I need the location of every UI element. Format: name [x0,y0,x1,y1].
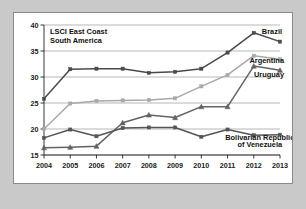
marker-bolivarian-2006 [95,135,98,138]
marker-argentina-2009 [174,97,177,100]
xtick-label-2012: 2012 [246,161,262,170]
marker-brazil-2004 [42,97,45,100]
marker-brazil-2010 [200,67,203,70]
marker-bolivarian-2005 [69,128,72,131]
marker-argentina-2011 [226,73,229,76]
marker-argentina-2010 [200,85,203,88]
series-label-argentina: Argentina [250,56,285,65]
ytick-label-35: 35 [31,47,39,56]
marker-bolivarian-2004 [42,136,45,139]
marker-brazil-2011 [226,51,229,54]
marker-bolivarian-2010 [200,135,203,138]
xtick-label-2013: 2013 [272,161,288,170]
marker-brazil-2013 [278,40,281,43]
ytick-label-20: 20 [31,125,39,134]
series-label-brazil: Brazil [262,27,282,36]
series-label-venezuela-line2: of Venezuela [237,140,283,149]
marker-brazil-2005 [69,68,72,71]
chart-screenshot: 1520253035402004200520062007200820092010… [0,0,306,209]
marker-brazil-2007 [121,67,124,70]
marker-bolivarian-2011 [226,128,229,131]
xtick-label-2007: 2007 [115,161,131,170]
marker-brazil-2006 [95,67,98,70]
marker-argentina-2005 [69,102,72,105]
marker-bolivarian-2007 [121,126,124,129]
chart-panel: 1520253035402004200520062007200820092010… [13,12,293,184]
ytick-label-30: 30 [31,73,39,82]
xtick-label-2004: 2004 [36,161,52,170]
xtick-label-2009: 2009 [167,161,183,170]
marker-brazil-2008 [147,71,150,74]
marker-brazil-2012 [252,31,255,34]
marker-argentina-2006 [95,99,98,102]
ytick-label-40: 40 [31,21,39,30]
marker-argentina-2007 [121,99,124,102]
series-label-uruguay: Uruguay [254,70,285,79]
plot-area: 1520253035402004200520062007200820092010… [14,13,292,183]
marker-bolivarian-2008 [147,126,150,129]
marker-argentina-2004 [42,127,45,130]
ytick-label-25: 25 [31,99,39,108]
series-line-argentina [44,56,280,129]
ytick-label-15: 15 [31,151,39,160]
marker-bolivarian-2009 [174,126,177,129]
xtick-label-2010: 2010 [193,161,209,170]
marker-brazil-2009 [174,70,177,73]
chart-title-line1: LSCI East Coast [50,27,108,36]
marker-argentina-2008 [147,98,150,101]
xtick-label-2006: 2006 [88,161,104,170]
line-chart: 1520253035402004200520062007200820092010… [14,13,292,183]
xtick-label-2011: 2011 [220,161,236,170]
xtick-label-2005: 2005 [62,161,78,170]
xtick-label-2008: 2008 [141,161,157,170]
chart-title-line2: South America [50,36,103,45]
